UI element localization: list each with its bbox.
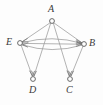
node-label-b: B (89, 38, 95, 48)
edge-e-to-d (21, 45, 32, 76)
graph-canvas (0, 0, 103, 105)
node-label-c: C (66, 85, 73, 95)
node-label-e: E (6, 37, 12, 47)
node-e[interactable] (18, 41, 23, 46)
edge-e-to-b-straight (23, 43, 82, 44)
edge-e-to-b-upper (23, 39, 82, 44)
node-label-a: A (48, 4, 54, 14)
node-c[interactable] (68, 77, 73, 82)
node-d[interactable] (31, 77, 36, 82)
edge-b-to-c (71, 46, 83, 76)
node-label-d: D (29, 85, 36, 95)
node-a[interactable] (50, 19, 55, 24)
graph-figure: A E B D C (0, 0, 103, 105)
node-group (18, 19, 87, 82)
edge-group (21, 23, 83, 76)
edge-b-to-e-lower (23, 45, 82, 50)
node-b[interactable] (82, 42, 87, 47)
